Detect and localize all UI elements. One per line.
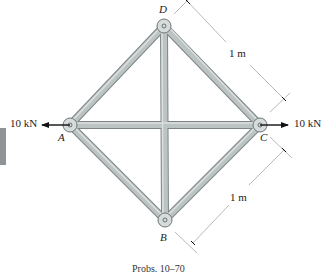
node-label-A: A <box>58 131 65 143</box>
node-label-B: B <box>160 231 167 243</box>
load-label-left: 10 kN <box>10 117 37 129</box>
node-label-D: D <box>159 3 167 15</box>
dimension-label-upper: 1 m <box>229 47 246 59</box>
dimension-label-lower: 1 m <box>230 191 247 203</box>
figure-caption: Probs. 10–70 <box>132 263 185 274</box>
pin-B <box>158 213 172 227</box>
node-label-C: C <box>260 131 267 143</box>
pin-D <box>157 19 171 33</box>
load-label-right: 10 kN <box>294 117 321 129</box>
